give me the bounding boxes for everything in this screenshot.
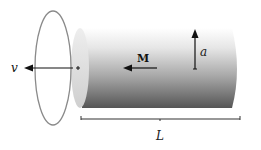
length-bracket: [81, 116, 240, 121]
radius-label: a: [200, 45, 207, 59]
magnetized-cylinder-diagram: v M a L: [0, 0, 261, 150]
magnetization-label: M: [137, 52, 149, 65]
velocity-label: v: [11, 61, 18, 75]
length-label: L: [155, 129, 164, 143]
cylinder-body: [78, 28, 237, 108]
